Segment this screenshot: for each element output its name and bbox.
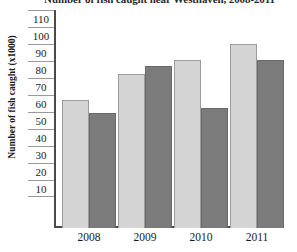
bar-2011-dark-series: [257, 60, 284, 228]
bar-group-2009: [118, 0, 172, 228]
bar-group-2011: [230, 0, 284, 228]
x-tick-label-2008: 2008: [59, 231, 119, 243]
x-tick-label-2011: 2011: [227, 231, 287, 243]
x-tick-label-2009: 2009: [115, 231, 175, 243]
y-tick-label: 100: [28, 27, 54, 44]
bar-2009-light-series: [118, 74, 145, 228]
y-axis-tick-labels: 110100908070605040302010: [28, 10, 54, 228]
x-tick-label-2010: 2010: [171, 231, 231, 243]
bar-2010-dark-series: [201, 108, 228, 228]
bar-2010-light-series: [174, 60, 201, 228]
bar-2008-dark-series: [89, 113, 116, 228]
y-tick-label: 20: [28, 163, 54, 180]
bar-group-2010: [174, 0, 228, 228]
bar-2009-dark-series: [145, 66, 172, 228]
y-axis-title: Number of fish caught (x1000): [7, 17, 17, 177]
y-tick-label: 70: [28, 78, 54, 95]
y-tick-label: 50: [28, 112, 54, 129]
y-tick-label: 80: [28, 61, 54, 78]
y-tick-label: 60: [28, 95, 54, 112]
y-tick-label: 110: [28, 10, 54, 27]
bar-chart: Number of fish caught near Westhaven, 20…: [0, 0, 297, 252]
bar-2008-light-series: [62, 100, 89, 228]
bar-group-2008: [62, 0, 116, 228]
bar-2011-light-series: [230, 44, 257, 228]
x-axis-tick-labels: 2008200920102011: [56, 231, 282, 251]
bar-series-container: [56, 0, 282, 228]
y-tick-label: 40: [28, 129, 54, 146]
y-tick-label: 10: [28, 180, 54, 197]
y-tick-label: 90: [28, 44, 54, 61]
y-tick-label: 30: [28, 146, 54, 163]
